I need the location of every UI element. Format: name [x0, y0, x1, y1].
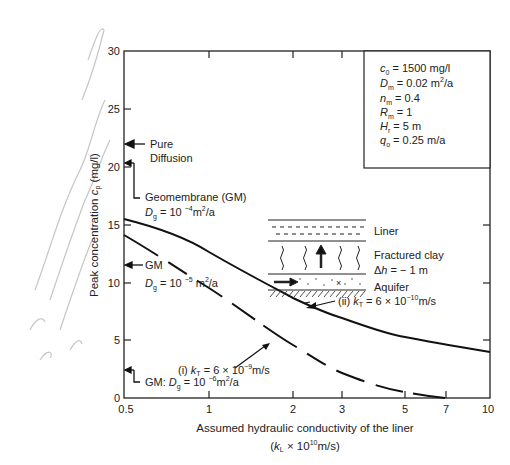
svg-text:Dg = 10 −4m2/a: Dg = 10 −4m2/a — [145, 205, 216, 221]
svg-text:Aquifer: Aquifer — [374, 281, 409, 293]
svg-text:10: 10 — [108, 277, 120, 289]
svg-text:c0 = 1500 mg/l: c0 = 1500 mg/l — [380, 62, 450, 76]
chart-figure: 30 25 20 15 10 5 0 0.5 1 2 3 5 7 10 Assu… — [0, 0, 510, 465]
reference-markers — [125, 140, 145, 382]
svg-text:Geomembrane (GM): Geomembrane (GM) — [145, 191, 246, 203]
svg-text:3: 3 — [339, 403, 345, 415]
svg-text:Fractured clay: Fractured clay — [374, 249, 444, 261]
svg-text:Δh = − 1 m: Δh = − 1 m — [374, 264, 428, 276]
svg-text:Hr = 5 m: Hr = 5 m — [380, 120, 421, 134]
inset-labels: Liner Fractured clay Δh = − 1 m Aquifer — [374, 225, 444, 293]
svg-text:×: × — [336, 278, 341, 288]
svg-text:10: 10 — [482, 403, 494, 415]
svg-text:0.5: 0.5 — [118, 403, 133, 415]
svg-text:nm = 0.4: nm = 0.4 — [380, 92, 420, 106]
svg-text:GM: Dg = 10 −6m2/a: GM: Dg = 10 −6m2/a — [145, 375, 240, 391]
x-tick-labels: 0.5 1 2 3 5 7 10 — [118, 403, 494, 415]
x-axis-title: Assumed hydraulic conductivity of the li… — [196, 422, 413, 434]
svg-text:20: 20 — [108, 161, 120, 173]
svg-text:(i) kT = 6 × 10−9m/s: (i) kT = 6 × 10−9m/s — [178, 363, 270, 377]
svg-text:30: 30 — [108, 45, 120, 57]
y-tick-labels: 30 25 20 15 10 5 0 — [108, 45, 120, 404]
svg-text:qo = 0.25 m/a: qo = 0.25 m/a — [380, 134, 446, 148]
svg-text:25: 25 — [108, 103, 120, 115]
svg-text:15: 15 — [108, 219, 120, 231]
svg-text:Rm = 1: Rm = 1 — [380, 106, 412, 120]
svg-text:5: 5 — [114, 334, 120, 346]
inset-diagram: × — [268, 220, 366, 297]
svg-text:Liner: Liner — [374, 225, 399, 237]
svg-text:Diffusion: Diffusion — [150, 152, 193, 164]
parameters-box: c0 = 1500 mg/l Dm = 0.02 m2/a nm = 0.4 R… — [364, 51, 490, 168]
svg-text:5: 5 — [402, 403, 408, 415]
svg-text:Pure: Pure — [150, 138, 173, 150]
x-axis-units: (kL × 1010m/s) — [270, 439, 340, 453]
svg-text:Dg = 10 −5 m2/a: Dg = 10 −5 m2/a — [145, 276, 219, 292]
svg-text:7: 7 — [443, 403, 449, 415]
svg-text:GM: GM — [145, 259, 163, 271]
y-axis-title: Peak concentration cp (mg/l) — [88, 153, 102, 297]
svg-text:(ii) kT = 6 × 10−10m/s: (ii) kT = 6 × 10−10m/s — [338, 294, 437, 308]
svg-text:2: 2 — [290, 403, 296, 415]
svg-text:1: 1 — [206, 403, 212, 415]
